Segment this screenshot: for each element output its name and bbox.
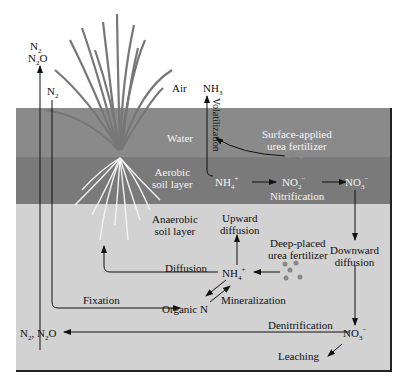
aerobic-label: Aerobicsoil layer <box>152 166 193 190</box>
volatilization-label: Volatilization <box>210 98 222 152</box>
n2o-top-label: N2O <box>28 52 47 64</box>
diffusion-label: Diffusion <box>165 262 207 274</box>
air-label: Air <box>172 82 187 94</box>
no3-anaerobic-label: NO3− <box>343 327 366 339</box>
mineralization-label: Mineralization <box>221 294 286 306</box>
n2-mid-label: N2 <box>47 85 58 97</box>
rice-plant-icon <box>45 14 172 150</box>
no3-aerobic-label: NO3− <box>345 176 368 188</box>
fertilizer-granules-icon <box>283 152 304 281</box>
upward-diffusion-label: Upwarddiffusion <box>220 212 260 236</box>
nh4-anaerobic-label: NH4+ <box>222 267 245 279</box>
water-label: Water <box>167 132 193 144</box>
nh4-aerobic-label: NH4+ <box>215 176 238 188</box>
downward-diffusion-label: Downwarddiffusion <box>330 244 379 268</box>
anaerobic-label: Anaerobicsoil layer <box>152 213 198 237</box>
no2-label: NO2− <box>282 176 305 188</box>
leaching-label: Leaching <box>278 350 319 362</box>
n2-top-label: N2 <box>30 40 41 52</box>
deep-fertilizer-label: Deep-placedurea fertilizer <box>268 237 328 261</box>
nh3-label: NH3 <box>203 82 222 94</box>
nitrification-label: Nitrification <box>270 190 324 202</box>
organic-n-label: Organic N <box>162 303 208 315</box>
denitrification-label: Denitrification <box>268 319 333 331</box>
roots-icon <box>75 158 160 240</box>
n2-n2o-bottom-label: N2, N2O <box>20 327 56 339</box>
surface-fertilizer-label: Surface-appliedurea fertilizer <box>262 128 332 152</box>
fixation-label: Fixation <box>83 294 120 306</box>
